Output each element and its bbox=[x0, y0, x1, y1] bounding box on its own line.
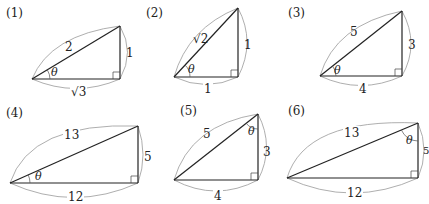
horizontal-side-label: 12 bbox=[67, 190, 84, 204]
vertical-side-label: 3 bbox=[408, 38, 416, 52]
hypotenuse-label: 5 bbox=[350, 25, 358, 39]
vertical-side-label: 1 bbox=[244, 38, 252, 52]
hypotenuse-label: 13 bbox=[63, 128, 80, 142]
hypotenuse-label: 5 bbox=[203, 127, 211, 141]
right-triangle-diagram bbox=[280, 0, 426, 100]
hypotenuse-label: √2 bbox=[193, 32, 208, 46]
problem-6: (6) 13 5 12 θ bbox=[280, 100, 426, 203]
horizontal-side-label: 4 bbox=[358, 82, 368, 96]
horizontal-side-label: 4 bbox=[213, 189, 223, 203]
problem-1: (1) 2 1 √3 θ bbox=[0, 0, 140, 100]
theta-label: θ bbox=[35, 170, 42, 183]
horizontal-side-label: √3 bbox=[70, 85, 87, 99]
theta-label: θ bbox=[406, 134, 413, 147]
theta-label: θ bbox=[188, 63, 195, 76]
problem-4: (4) 13 12 θ bbox=[0, 100, 145, 203]
right-triangle-diagram bbox=[0, 100, 145, 203]
problem-4-vertical-side-label: 5 bbox=[144, 150, 152, 164]
theta-label: θ bbox=[334, 64, 341, 77]
horizontal-side-label: 12 bbox=[346, 186, 363, 200]
hypotenuse-label: 13 bbox=[343, 126, 360, 140]
vertical-side-label: 1 bbox=[126, 46, 134, 60]
theta-label: θ bbox=[51, 66, 58, 79]
horizontal-side-label: 1 bbox=[203, 82, 213, 96]
problem-2: (2) √2 1 1 θ bbox=[140, 0, 280, 100]
vertical-side-label: 5 bbox=[423, 145, 429, 156]
hypotenuse-label: 2 bbox=[65, 40, 73, 54]
theta-label: θ bbox=[248, 125, 255, 138]
vertical-side-label: 3 bbox=[263, 145, 271, 159]
problem-5: (5) 5 3 4 θ bbox=[155, 100, 285, 203]
problem-3: (3) 5 3 4 θ bbox=[280, 0, 426, 100]
